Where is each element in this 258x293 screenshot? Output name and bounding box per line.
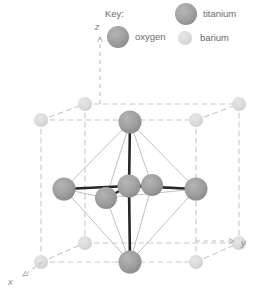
barium-corner-back-top-left (78, 97, 92, 111)
barium-corner-front-bottom-left (34, 255, 48, 269)
oxygen-face-front (95, 187, 117, 209)
titanium-body-centre (118, 175, 141, 198)
legend-swatch-oxygen (107, 26, 129, 48)
legend-label-oxygen: oxygen (135, 31, 166, 42)
oxygen-face-back (141, 174, 163, 196)
oxygen-face-bottom (119, 251, 142, 274)
legend-title: Key: (105, 8, 124, 19)
barium-corner-back-top-right (232, 97, 246, 111)
barium-corner-front-bottom-right (189, 255, 203, 269)
oxygen-face-left (53, 178, 76, 201)
barium-corner-back-bottom-left (78, 236, 92, 250)
legend-swatch-barium (178, 31, 192, 45)
x-axis-line (23, 262, 42, 276)
oxygen-face-top (119, 111, 142, 134)
barium-corner-front-top-right (189, 113, 203, 127)
legend: Key: titanium oxygen barium (105, 3, 236, 48)
legend-label-titanium: titanium (203, 8, 236, 19)
oxygen-face-right (185, 178, 208, 201)
axis-label-z: z (94, 22, 100, 32)
axis-label-y: y (240, 238, 246, 248)
axis-label-x: x (7, 277, 13, 287)
legend-swatch-titanium (175, 3, 197, 25)
crystal-structure-svg: z y x Key: titanium oxygen barium (0, 0, 258, 293)
figure-canvas: z y x Key: titanium oxygen barium (0, 0, 258, 293)
legend-label-barium: barium (200, 32, 229, 43)
barium-corner-front-top-left (34, 113, 48, 127)
